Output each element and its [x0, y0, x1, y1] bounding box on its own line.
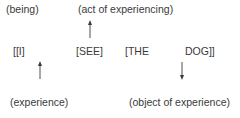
arrow-up-icon [38, 61, 42, 79]
arrow-down-icon [180, 62, 184, 80]
arrows-layer [0, 0, 240, 118]
arrow-up-icon [88, 20, 92, 38]
